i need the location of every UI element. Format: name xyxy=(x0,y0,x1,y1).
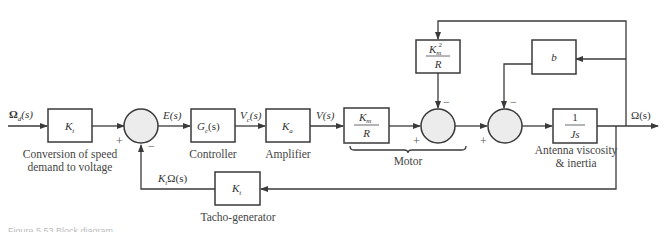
svg-text:+: + xyxy=(480,134,487,148)
svg-text:b: b xyxy=(551,51,557,63)
wire-b-to-sum3 xyxy=(504,64,532,108)
svg-text:Motor: Motor xyxy=(394,155,423,167)
feedback-signal-label: KtΩ(s) xyxy=(157,172,187,187)
block-controller: Gc(s) Controller xyxy=(189,109,236,160)
svg-text:+: + xyxy=(116,134,123,148)
svg-text:1: 1 xyxy=(572,111,578,123)
block-viscosity: b xyxy=(532,40,576,74)
summing-junction-2: + − xyxy=(413,95,455,148)
svg-text:−: − xyxy=(443,95,450,109)
error-signal-label: E(s) xyxy=(162,109,182,122)
svg-text:Tacho-generator: Tacho-generator xyxy=(200,211,275,224)
input-signal-label: Ωd(s) xyxy=(9,108,33,123)
summing-junction-1: + − xyxy=(116,109,158,153)
output-signal-label: Ω(s) xyxy=(631,109,651,122)
block-amplifier: Ka Amplifier xyxy=(265,109,311,161)
summing-junction-3: + − xyxy=(480,95,522,148)
svg-text:Js: Js xyxy=(570,128,579,140)
svg-text:Controller: Controller xyxy=(189,148,236,160)
motor-group-brace: Motor xyxy=(350,146,466,167)
svg-text:demand to voltage: demand to voltage xyxy=(28,161,113,174)
block-inertia: 1 Js Antenna viscosity & inertia xyxy=(535,109,618,169)
svg-text:R: R xyxy=(434,58,442,70)
svg-text:Antenna viscosity: Antenna viscosity xyxy=(535,144,618,157)
svg-text:& inertia: & inertia xyxy=(555,157,596,169)
svg-text:Km2: Km2 xyxy=(428,41,442,57)
svg-text:−: − xyxy=(148,139,155,153)
v-signal-label: V(s) xyxy=(316,109,335,122)
svg-text:Conversion of speed: Conversion of speed xyxy=(23,148,118,161)
figure-caption: Figure 5.53 Block diagram xyxy=(8,226,113,232)
svg-text:R: R xyxy=(362,127,370,139)
svg-text:−: − xyxy=(510,95,517,109)
block-back-emf: Km2 R xyxy=(416,40,460,73)
svg-text:Amplifier: Amplifier xyxy=(265,148,311,161)
svg-text:+: + xyxy=(413,134,420,148)
vc-signal-label: Vc(s) xyxy=(240,109,262,124)
block-motor-gain: Km R xyxy=(344,108,389,143)
block-tacho: Kt Tacho-generator xyxy=(200,172,275,224)
block-diagram: Kt Conversion of speed demand to voltage… xyxy=(0,0,669,232)
block-conversion: Kt Conversion of speed demand to voltage xyxy=(23,109,118,174)
